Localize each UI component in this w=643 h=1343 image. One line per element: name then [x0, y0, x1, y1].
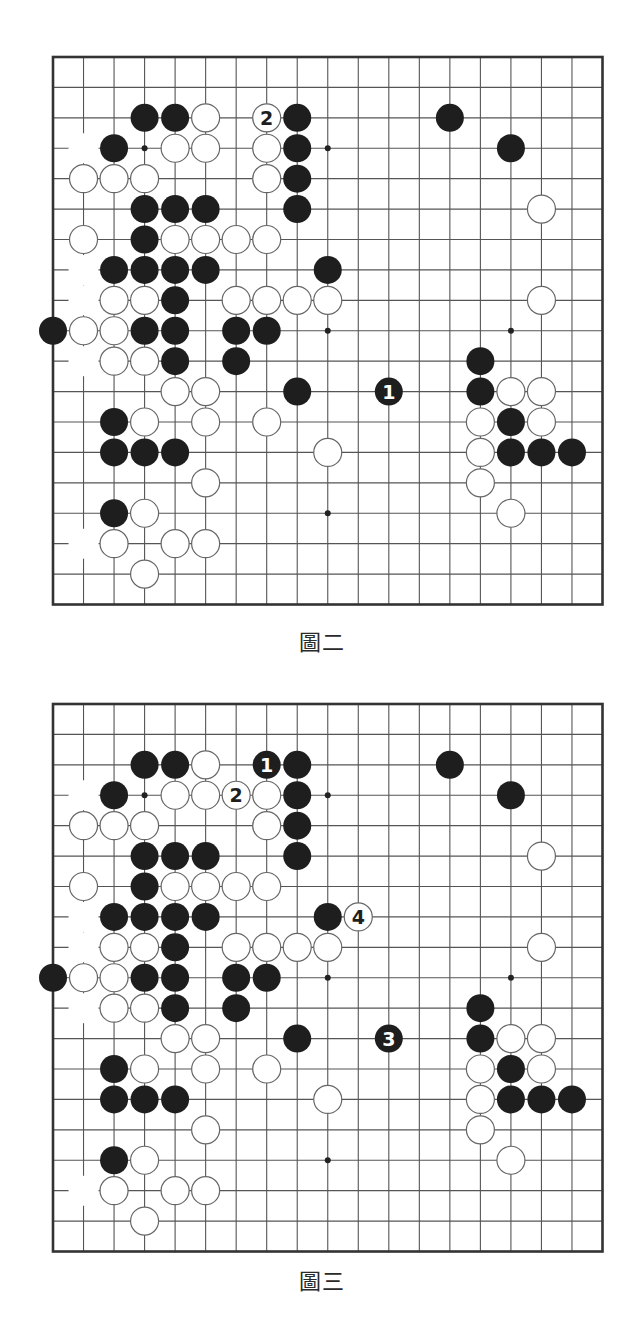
- white-stone: [222, 286, 250, 314]
- white-stone: [100, 812, 128, 840]
- black-stone: [100, 1055, 128, 1083]
- star-point: [325, 1157, 331, 1163]
- erased-point: [69, 529, 99, 559]
- erased-point: [69, 932, 99, 962]
- star-point: [325, 145, 331, 151]
- white-stone: [100, 933, 128, 961]
- white-stone: [161, 134, 189, 162]
- black-stone: [131, 195, 159, 223]
- white-stone: [131, 286, 159, 314]
- star-point: [325, 792, 331, 798]
- white-stone: [527, 195, 555, 223]
- move-number: 1: [260, 754, 273, 776]
- white-stone: [100, 1177, 128, 1205]
- white-stone: [131, 499, 159, 527]
- white-stone: [466, 1085, 494, 1113]
- erased-point: [69, 993, 99, 1023]
- black-stone: [161, 438, 189, 466]
- black-stone: [314, 256, 342, 284]
- black-stone: [497, 134, 525, 162]
- white-stone: [131, 1207, 159, 1235]
- black-stone: [283, 751, 311, 779]
- white-stone: [253, 933, 281, 961]
- black-stone: [131, 751, 159, 779]
- black-stone: [192, 195, 220, 223]
- white-stone: [497, 1146, 525, 1174]
- black-stone: [192, 903, 220, 931]
- white-stone: [131, 1055, 159, 1083]
- move-number: 2: [260, 107, 273, 129]
- white-stone: [192, 378, 220, 406]
- black-stone: [100, 781, 128, 809]
- black-stone: [283, 104, 311, 132]
- black-stone: [100, 408, 128, 436]
- white-stone: [283, 933, 311, 961]
- white-stone: [466, 408, 494, 436]
- black-stone: [283, 812, 311, 840]
- white-stone: [192, 408, 220, 436]
- black-stone: [131, 226, 159, 254]
- black-stone: [131, 256, 159, 284]
- black-stone: [466, 994, 494, 1022]
- white-stone: [192, 1116, 220, 1144]
- white-stone: [253, 781, 281, 809]
- black-stone: [161, 903, 189, 931]
- white-stone: [131, 933, 159, 961]
- white-stone: [527, 408, 555, 436]
- stones: 12: [39, 104, 586, 588]
- white-stone: [527, 1055, 555, 1083]
- white-stone: [100, 994, 128, 1022]
- black-stone-move-1: 1: [253, 751, 281, 779]
- erased-point: [69, 133, 99, 163]
- move-number: 4: [352, 906, 365, 928]
- white-stone: [497, 378, 525, 406]
- white-stone: [70, 964, 98, 992]
- white-stone: [253, 1055, 281, 1083]
- black-stone: [161, 1085, 189, 1113]
- erased-point: [69, 346, 99, 376]
- black-stone: [131, 873, 159, 901]
- white-stone: [314, 933, 342, 961]
- white-stone: [497, 1025, 525, 1053]
- white-stone: [161, 378, 189, 406]
- black-stone: [558, 1085, 586, 1113]
- black-stone: [100, 1146, 128, 1174]
- stones: 1234: [39, 751, 586, 1235]
- white-stone: [161, 530, 189, 558]
- white-stone: [131, 1146, 159, 1174]
- white-stone: [253, 408, 281, 436]
- black-stone: [161, 842, 189, 870]
- white-stone: [466, 1055, 494, 1083]
- black-stone: [497, 1085, 525, 1113]
- white-stone: [70, 226, 98, 254]
- white-stone: [497, 499, 525, 527]
- black-stone: [466, 347, 494, 375]
- black-stone: [100, 1085, 128, 1113]
- white-stone-move-4: 4: [344, 903, 372, 931]
- white-stone: [192, 226, 220, 254]
- black-stone: [283, 842, 311, 870]
- black-stone: [497, 438, 525, 466]
- black-stone: [192, 842, 220, 870]
- white-stone: [253, 165, 281, 193]
- black-stone: [131, 903, 159, 931]
- white-stone: [253, 873, 281, 901]
- black-stone-move-3: 3: [375, 1025, 403, 1053]
- white-stone: [70, 812, 98, 840]
- black-stone: [161, 195, 189, 223]
- white-stone: [192, 104, 220, 132]
- black-stone: [161, 994, 189, 1022]
- white-stone: [161, 873, 189, 901]
- black-stone: [283, 1025, 311, 1053]
- white-stone-move-2: 2: [222, 781, 250, 809]
- white-stone: [161, 226, 189, 254]
- star-point: [325, 328, 331, 334]
- diagram-caption-2: 圖三: [0, 1263, 643, 1295]
- white-stone: [100, 347, 128, 375]
- white-stone: [70, 317, 98, 345]
- black-stone: [131, 317, 159, 345]
- white-stone: [192, 530, 220, 558]
- black-stone: [131, 964, 159, 992]
- white-stone: [131, 408, 159, 436]
- black-stone: [192, 256, 220, 284]
